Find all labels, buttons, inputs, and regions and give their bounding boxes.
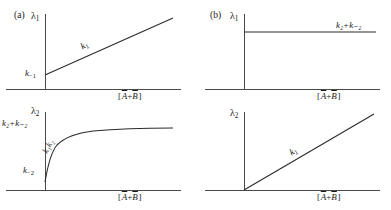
- x-axis: [6, 89, 181, 90]
- x-axis-label: [ A+B ]: [118, 92, 142, 101]
- curve-label-k2-plus-kminus2: k₂+k₋₂: [336, 21, 361, 30]
- x-axis: [205, 89, 380, 90]
- y-axis-label: λ1: [230, 11, 238, 23]
- asymptote-label: k₂+k₋₂: [2, 119, 27, 128]
- x-axis-label: [ A+B ]: [118, 193, 142, 202]
- x-axis-label: [ A+B ]: [317, 193, 341, 202]
- lambda2-saturating-curve: [45, 112, 181, 190]
- y-axis-label: λ2: [230, 108, 238, 120]
- x-axis-label: [ A+B ]: [317, 92, 341, 101]
- panel-a-subplot-lambda1: λ1 k−1 k1 [ A+B ]: [0, 0, 196, 95]
- y-intercept-label: k−2: [23, 166, 34, 176]
- panel-b-subplot-lambda2: λ2 k1 [ A+B ]: [196, 104, 391, 210]
- x-axis: [205, 190, 380, 191]
- y-axis-label: λ1: [31, 11, 39, 23]
- panel-b: (b) λ1 k₂+k₋₂ [ A+B ] λ2: [196, 0, 391, 210]
- panel-b-subplot-lambda1: λ1 k₂+k₋₂ [ A+B ]: [196, 0, 391, 95]
- panel-a: (a) λ1 k−1 k1 [ A+B ]: [0, 0, 196, 210]
- y-axis-label: λ2: [31, 106, 39, 118]
- x-axis: [6, 190, 181, 191]
- lambda1-line: [45, 14, 181, 89]
- panel-a-subplot-lambda2: λ2 k₂+k₋₂ k−2 k₁k₂ [ A+B ]: [0, 104, 196, 210]
- kinetics-figure: (a) λ1 k−1 k1 [ A+B ]: [0, 0, 391, 210]
- lambda2-line: [244, 112, 380, 190]
- y-intercept-label: k−1: [25, 69, 36, 79]
